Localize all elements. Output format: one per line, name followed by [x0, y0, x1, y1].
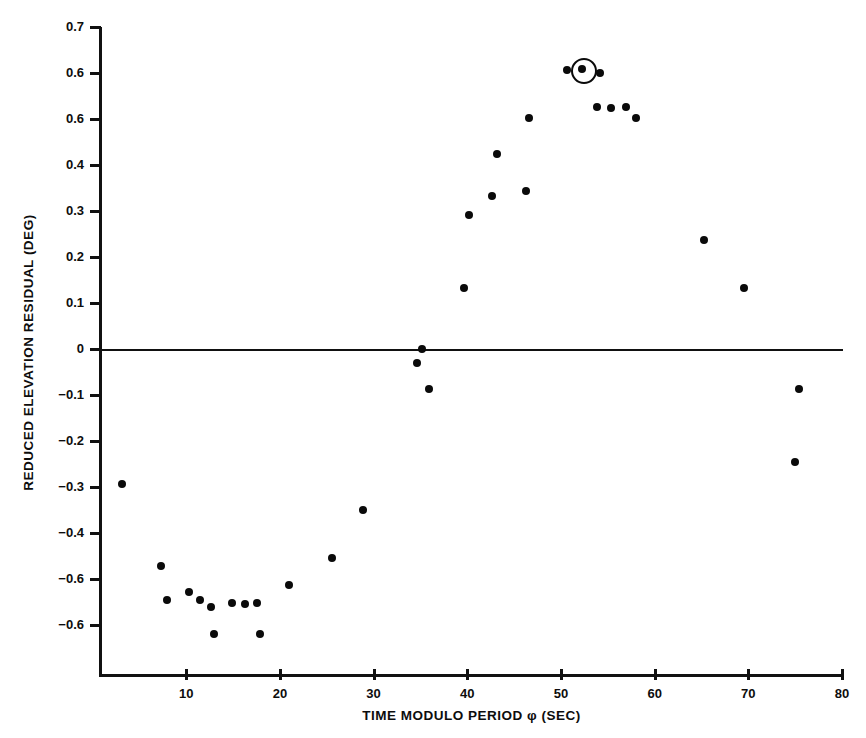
data-point [593, 103, 601, 111]
data-point [425, 385, 433, 393]
y-axis-tick-label: 0.6 [28, 65, 84, 80]
data-point [241, 600, 249, 608]
data-point [493, 150, 501, 158]
y-axis-tick-label: −0.1 [28, 387, 84, 402]
y-axis-tick-label: −0.2 [28, 433, 84, 448]
data-point [418, 345, 426, 353]
y-axis-tick-label: 0.1 [28, 295, 84, 310]
data-point [522, 187, 530, 195]
x-axis-tick [560, 669, 563, 680]
y-axis-tick-label: 0 [28, 341, 84, 356]
data-point [196, 596, 204, 604]
data-point [607, 104, 615, 112]
x-axis-tick [373, 669, 376, 680]
x-axis-tick [841, 669, 844, 680]
data-point [795, 385, 803, 393]
data-point [791, 458, 799, 466]
data-point [700, 236, 708, 244]
data-point [488, 192, 496, 200]
y-axis-tick-label: 0.6 [28, 111, 84, 126]
data-point [740, 284, 748, 292]
data-point [185, 588, 193, 596]
data-point [253, 599, 261, 607]
data-point [563, 66, 571, 74]
y-axis-tick [90, 164, 101, 167]
data-point [359, 506, 367, 514]
y-axis-tick [90, 440, 101, 443]
x-axis-title: TIME MODULO PERIOD φ (SEC) [101, 708, 842, 723]
data-point [460, 284, 468, 292]
y-axis-tick [90, 256, 101, 259]
data-point [118, 480, 126, 488]
y-axis-tick [90, 486, 101, 489]
data-point [632, 114, 640, 122]
scatter-plot-figure: REDUCED ELEVATION RESIDUAL (DEG) TIME MO… [0, 0, 866, 738]
y-axis-tick-label: 0.4 [28, 157, 84, 172]
y-axis-tick [90, 72, 101, 75]
data-point [163, 596, 171, 604]
y-axis-tick [90, 118, 101, 121]
data-point [210, 630, 218, 638]
x-axis-tick-label: 80 [822, 686, 862, 701]
data-point [596, 69, 604, 77]
x-axis-tick-label: 20 [260, 686, 300, 701]
x-axis-tick [279, 669, 282, 680]
data-point [256, 630, 264, 638]
y-axis-tick-label: −0.6 [28, 571, 84, 586]
data-point [228, 599, 236, 607]
x-axis-tick [185, 669, 188, 680]
y-axis-tick-label: −0.3 [28, 479, 84, 494]
x-axis-tick-label: 10 [166, 686, 206, 701]
zero-reference-line [99, 349, 843, 351]
y-axis-tick [90, 578, 101, 581]
data-point [207, 603, 215, 611]
y-axis-tick-label: −0.4 [28, 525, 84, 540]
x-axis-tick [654, 669, 657, 680]
x-axis-tick-label: 40 [447, 686, 487, 701]
x-axis-spine [99, 674, 843, 677]
x-axis-tick [747, 669, 750, 680]
y-axis-tick [90, 26, 101, 29]
y-axis-tick [90, 532, 101, 535]
data-point [525, 114, 533, 122]
data-point [465, 211, 473, 219]
data-point [157, 562, 165, 570]
x-axis-tick-label: 70 [728, 686, 768, 701]
data-point [413, 359, 421, 367]
data-point [328, 554, 336, 562]
data-point [285, 581, 293, 589]
x-axis-tick-label: 60 [635, 686, 675, 701]
y-axis-tick [90, 210, 101, 213]
highlighted-point-ring [571, 58, 597, 84]
y-axis-tick [90, 348, 101, 351]
x-axis-tick [466, 669, 469, 680]
y-axis-tick-label: −0.6 [28, 617, 84, 632]
data-point [622, 103, 630, 111]
y-axis-tick-label: 0.2 [28, 249, 84, 264]
x-axis-tick-label: 50 [541, 686, 581, 701]
y-axis-tick [90, 302, 101, 305]
y-axis-tick [90, 624, 101, 627]
x-axis-tick-label: 30 [354, 686, 394, 701]
y-axis-tick [90, 394, 101, 397]
y-axis-tick-label: 0.3 [28, 203, 84, 218]
y-axis-tick-label: 0.7 [28, 19, 84, 34]
